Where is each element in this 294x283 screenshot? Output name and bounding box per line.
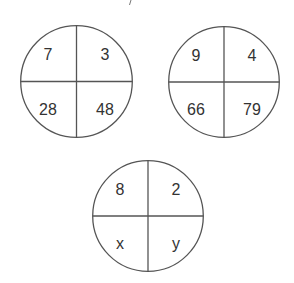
unknown-x: x [116, 235, 124, 253]
quadrant-value: 66 [187, 101, 205, 119]
quadrant-top-right: 3 [77, 25, 133, 83]
quadrant-value: 8 [116, 181, 125, 199]
quadrant-value: 4 [248, 47, 257, 65]
quadrant-top-left: 8 [92, 160, 148, 218]
quadrant-value: 7 [44, 46, 53, 64]
unknown-y: y [172, 235, 180, 253]
quadrant-top-left: 9 [168, 26, 224, 84]
quadrant-value: 9 [192, 47, 201, 65]
quadrant-bottom-right: y [148, 216, 204, 274]
quadrant-top-right: 4 [224, 26, 280, 84]
quadrant-value: 48 [96, 101, 114, 119]
quadrant-value: 3 [101, 46, 110, 64]
quadrant-bottom-right: 48 [77, 82, 133, 140]
quadrant-bottom-left: 66 [168, 82, 224, 140]
quadrant-top-right: 2 [148, 160, 204, 218]
quadrant-value: 79 [243, 101, 261, 119]
quadrant-value: 2 [172, 181, 181, 199]
quadrant-bottom-left: x [92, 216, 148, 274]
quadrant-bottom-right: 79 [224, 82, 280, 140]
puzzle-circle-2: 9 4 66 79 [168, 26, 280, 138]
puzzle-circle-1: 7 3 28 48 [20, 25, 133, 138]
quadrant-value: 28 [39, 101, 57, 119]
cropped-text-fragment [128, 0, 132, 6]
quadrant-bottom-left: 28 [20, 82, 76, 140]
puzzle-circle-3: 8 2 x y [92, 160, 204, 272]
quadrant-top-left: 7 [20, 25, 76, 83]
number-circle-puzzle: 7 3 28 48 9 4 66 79 8 2 x y [0, 0, 294, 283]
